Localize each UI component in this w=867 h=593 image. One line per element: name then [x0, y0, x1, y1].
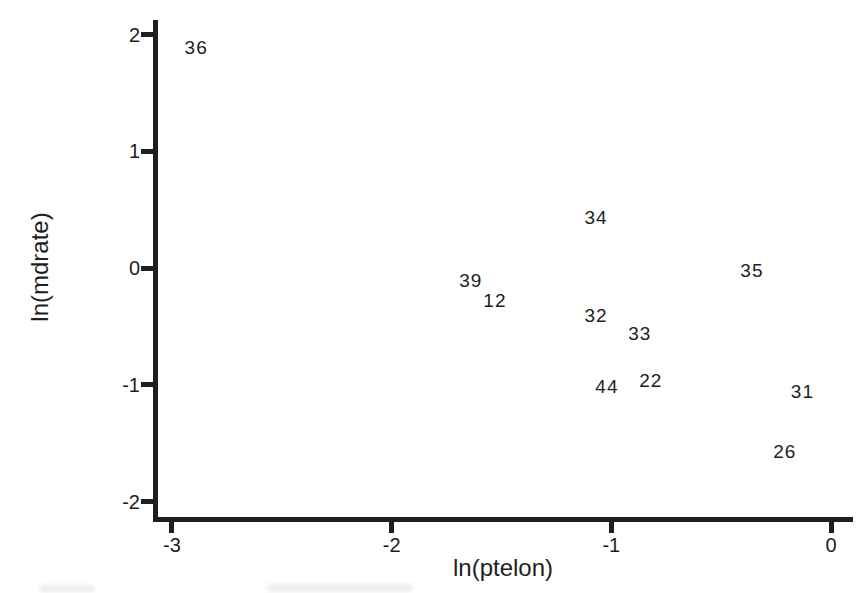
- y-tick-label: 1: [129, 140, 140, 162]
- x-axis-line: [153, 517, 853, 522]
- x-tick-mark: [169, 521, 174, 533]
- y-tick-mark: [141, 266, 154, 271]
- data-point-label: 31: [791, 381, 814, 400]
- y-tick-mark: [141, 382, 154, 387]
- scan-artifact: [267, 584, 412, 592]
- data-point-label: 34: [584, 207, 607, 226]
- x-tick-label: -1: [602, 534, 620, 556]
- y-axis-line: [153, 20, 158, 522]
- scatter-plot-figure: ln(mdrate) ln(ptelon) -3-2-10210-1-2 363…: [0, 0, 867, 593]
- x-tick-label: -3: [163, 534, 181, 556]
- y-tick-mark: [141, 499, 154, 504]
- x-axis-title: ln(ptelon): [453, 555, 553, 581]
- data-point-label: 44: [595, 376, 618, 395]
- scan-artifact: [40, 585, 95, 592]
- data-point-label: 26: [773, 442, 796, 461]
- x-tick-label: 0: [825, 534, 836, 556]
- y-tick-mark: [141, 149, 154, 154]
- data-point-label: 36: [185, 38, 208, 57]
- data-point-label: 22: [639, 371, 662, 390]
- data-point-label: 39: [459, 270, 482, 289]
- y-tick-label: -2: [122, 491, 140, 513]
- y-tick-mark: [141, 32, 154, 37]
- x-tick-mark: [829, 521, 834, 533]
- x-tick-label: -2: [383, 534, 401, 556]
- y-tick-label: -1: [122, 374, 140, 396]
- x-tick-mark: [609, 521, 614, 533]
- y-tick-label: 0: [129, 257, 140, 279]
- y-tick-label: 2: [129, 24, 140, 46]
- y-axis-title: ln(mdrate): [27, 212, 53, 321]
- data-point-label: 33: [628, 324, 651, 343]
- data-point-label: 35: [740, 261, 763, 280]
- x-tick-mark: [389, 521, 394, 533]
- data-point-label: 12: [483, 290, 506, 309]
- data-point-label: 32: [584, 305, 607, 324]
